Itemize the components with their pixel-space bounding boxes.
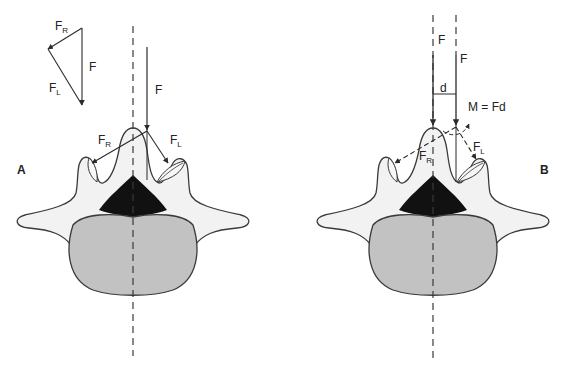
distance-label: d xyxy=(440,81,447,95)
moment-label: M = Fd xyxy=(468,100,506,114)
triangle-f-label: F xyxy=(89,60,96,74)
triangle-fr-label: FR xyxy=(55,19,68,35)
fl-vector-a xyxy=(147,131,168,163)
force-right-label-b: F xyxy=(460,52,467,66)
triangle-fl-label: FL xyxy=(49,81,61,97)
panel-label-b: B xyxy=(540,163,549,177)
panel-label-a: A xyxy=(17,163,26,177)
panel-b: F F d M = Fd FR FL B xyxy=(317,15,549,360)
fl-label-b: FL xyxy=(473,140,485,156)
fr-label-a: FR xyxy=(98,133,111,149)
vertebra-force-diagram: FR F FL F FR FL A F F d M = Fd xyxy=(0,0,564,369)
applied-force-label-a: F xyxy=(155,83,162,97)
force-triangle: FR F FL xyxy=(48,19,96,105)
fl-label-a: FL xyxy=(170,133,182,149)
panel-a: FR F FL F FR FL A xyxy=(17,19,249,356)
force-left-label-b: F xyxy=(438,33,445,47)
